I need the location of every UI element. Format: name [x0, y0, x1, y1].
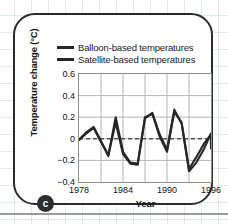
legend-swatch-balloon	[57, 46, 74, 50]
legend-item-satellite: Satellite-based temperatures	[57, 54, 228, 65]
y-tick-2: 0.2	[62, 112, 75, 122]
chart-legend: Balloon-based temperatures Satellite-bas…	[57, 42, 228, 66]
x-tick-1: 1984	[113, 185, 133, 195]
legend-label-satellite: Satellite-based temperatures	[78, 54, 195, 65]
figure-card: Balloon-based temperatures Satellite-bas…	[13, 13, 213, 205]
legend-swatch-satellite	[57, 58, 74, 62]
x-tick-2: 1990	[157, 185, 177, 195]
plot-area: 0.6 0.4 0.2 0 −0.2 −0.4 1978 1984 1990 1…	[78, 73, 212, 183]
x-tick-0: 1978	[69, 185, 89, 195]
figure-page: Balloon-based temperatures Satellite-bas…	[0, 0, 228, 224]
y-axis-title: Temperature change (°C)	[28, 21, 39, 145]
y-tick-3: 0	[70, 134, 75, 144]
y-tick-0: 0.6	[62, 69, 75, 79]
legend-item-balloon: Balloon-based temperatures	[57, 42, 228, 53]
legend-label-balloon: Balloon-based temperatures	[78, 42, 193, 53]
x-tick-3: 1996	[201, 185, 221, 195]
x-axis-title: Year	[78, 198, 213, 209]
y-tick-4: −0.2	[57, 155, 75, 165]
page-divider-rule	[0, 213, 228, 215]
panel-label-badge: c	[37, 195, 54, 212]
chart-canvas	[79, 74, 211, 182]
y-tick-1: 0.4	[62, 91, 75, 101]
